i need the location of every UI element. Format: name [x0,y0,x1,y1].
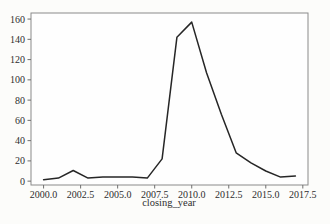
y-tick-label: 40 [15,135,25,146]
y-tick-label: 60 [15,115,25,126]
x-axis-label: closing_year [142,197,196,208]
line-chart-canvas: 2000.02002.52005.02007.52010.02012.52015… [0,0,330,224]
y-tick-label: 140 [10,34,25,45]
x-tick-label: 2002.5 [67,189,95,200]
y-tick-label: 0 [20,176,25,187]
y-tick-label: 80 [15,95,25,106]
chart-figure: 2000.02002.52005.02007.52010.02012.52015… [0,0,330,224]
y-tick-label: 160 [10,14,25,25]
x-tick-label: 2005.0 [104,189,132,200]
x-tick-label: 2012.5 [215,189,243,200]
y-tick-label: 120 [10,54,25,65]
y-tick-label: 20 [15,155,25,166]
x-tick-label: 2000.0 [30,189,58,200]
y-tick-label: 100 [10,74,25,85]
x-tick-label: 2015.0 [252,189,280,200]
x-tick-label: 2017.5 [289,189,317,200]
